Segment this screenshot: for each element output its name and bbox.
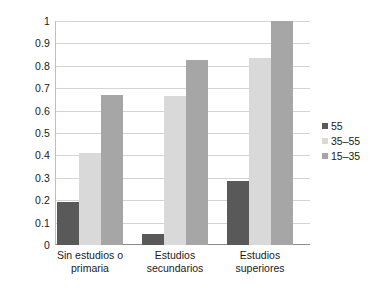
y-tick-label: 0.7 — [2, 83, 50, 94]
bar — [164, 96, 186, 245]
legend-swatch-icon — [322, 123, 328, 129]
bar — [57, 202, 79, 245]
y-tick-label: 0.1 — [2, 218, 50, 229]
x-tick-label: Sin estudios oprimaria — [43, 249, 137, 274]
x-tick-label-line: Sin estudios o — [43, 249, 137, 262]
bar-group — [142, 21, 208, 245]
bar — [101, 95, 123, 245]
legend-swatch-icon — [322, 153, 328, 159]
x-tick-label-line: Estudios — [213, 249, 307, 262]
bars-layer — [55, 21, 310, 245]
y-tick-label: 0.9 — [2, 38, 50, 49]
x-tick-label: Estudiossuperiores — [213, 249, 307, 274]
y-tick-label: 0.8 — [2, 61, 50, 72]
bar — [271, 21, 293, 245]
bar — [249, 58, 271, 245]
legend-item[interactable]: 15–35 — [322, 149, 377, 163]
legend-item[interactable]: 35–55 — [322, 134, 377, 148]
legend-label: 35–55 — [331, 136, 360, 147]
x-tick-label-line: Estudios — [128, 249, 222, 262]
x-tick-label-line: superiores — [213, 262, 307, 275]
y-tick-label: 1 — [2, 16, 50, 27]
x-tick-label-line: primaria — [43, 262, 137, 275]
bar — [79, 153, 101, 245]
bar — [227, 181, 249, 245]
legend-item[interactable]: 55 — [322, 119, 377, 133]
legend-label: 15–35 — [331, 151, 360, 162]
chart-legend: 5535–5515–35 — [322, 119, 377, 164]
bar-group — [227, 21, 293, 245]
x-tick-label: Estudiossecundarios — [128, 249, 222, 274]
x-tick-label-line: secundarios — [128, 262, 222, 275]
bar-chart: 00.10.20.30.40.50.60.70.80.91 Sin estudi… — [0, 0, 377, 294]
legend-label: 55 — [331, 121, 343, 132]
y-tick-label: 0.3 — [2, 173, 50, 184]
y-tick-label: 0.4 — [2, 150, 50, 161]
x-axis: Sin estudios oprimariaEstudiossecundario… — [55, 249, 310, 291]
y-tick-label: 0.5 — [2, 128, 50, 139]
gridline — [56, 245, 310, 246]
y-tick-label: 0.6 — [2, 106, 50, 117]
bar-group — [57, 21, 123, 245]
bar — [186, 60, 208, 245]
y-tick-label: 0.2 — [2, 195, 50, 206]
bar — [142, 234, 164, 245]
legend-swatch-icon — [322, 138, 328, 144]
